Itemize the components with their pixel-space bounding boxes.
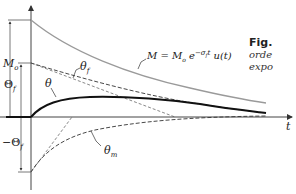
neg-thetaf-level-label: −Θf: [2, 137, 23, 151]
thetaf-level-label: Θf: [4, 79, 16, 93]
theta-curve-label: θ: [45, 78, 52, 89]
neg-thetaf-tangent: [31, 117, 72, 172]
neg-thetaf-level-text: −Θ: [2, 136, 20, 149]
figure-plot: [0, 0, 296, 194]
mo-label-sub: o: [14, 64, 18, 72]
m-equation-label: M = Mo e−σft u(t): [147, 50, 232, 63]
m-leader: [138, 59, 146, 69]
caption-line-2: expo: [249, 61, 273, 73]
thetaf-curve-sub: f: [87, 67, 90, 75]
thetam-curve-text: θ: [104, 144, 111, 157]
thetaf-tangent: [31, 63, 175, 117]
m-eq-main: M = M: [147, 50, 182, 61]
m-eq-e: e: [186, 50, 195, 61]
thetam-curve: [31, 116, 266, 172]
t-axis-label: t: [286, 121, 290, 132]
caption-fig-label: Fig.: [249, 37, 273, 49]
thetam-leader: [91, 131, 101, 146]
thetam-curve-label: θm: [104, 145, 117, 159]
caption-line-1: orde: [249, 49, 273, 61]
m-eq-exp: −σ: [195, 49, 206, 57]
thetaf-level-sub: f: [13, 85, 16, 93]
mo-label-text: M: [3, 57, 14, 70]
m-eq-tail: u(t): [210, 50, 231, 61]
thetam-curve-sub: m: [111, 151, 118, 159]
mo-label: Mo: [3, 58, 18, 72]
figure-caption: Fig. orde expo: [249, 37, 273, 73]
thetaf-curve-label: θf: [80, 61, 89, 75]
thetaf-curve: [31, 63, 266, 113]
thetaf-curve-text: θ: [80, 60, 87, 73]
thetaf-level-text: Θ: [4, 78, 13, 91]
neg-thetaf-level-sub: f: [20, 143, 23, 151]
